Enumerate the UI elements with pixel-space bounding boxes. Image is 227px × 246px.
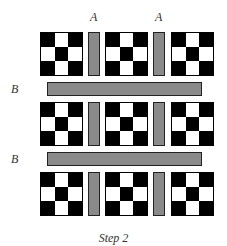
dark-square xyxy=(120,47,134,61)
dark-square xyxy=(41,61,55,75)
light-square xyxy=(172,187,186,201)
light-square xyxy=(186,33,200,47)
sashing-strip-a xyxy=(153,32,165,76)
dark-square xyxy=(68,103,82,117)
nine-patch-block xyxy=(40,172,83,216)
label-b-2: B xyxy=(11,153,18,165)
dark-square xyxy=(186,47,200,61)
sashing-strip-b xyxy=(47,152,202,166)
light-square xyxy=(186,131,200,145)
dark-square xyxy=(199,61,213,75)
dark-square xyxy=(172,131,186,145)
dark-square xyxy=(41,173,55,187)
light-square xyxy=(199,47,213,61)
dark-square xyxy=(68,201,82,215)
light-square xyxy=(68,187,82,201)
light-square xyxy=(199,117,213,131)
dark-square xyxy=(41,33,55,47)
light-square xyxy=(186,201,200,215)
nine-patch-block xyxy=(105,32,148,76)
light-square xyxy=(41,117,55,131)
dark-square xyxy=(55,47,69,61)
light-square xyxy=(120,33,134,47)
dark-square xyxy=(172,201,186,215)
light-square xyxy=(106,117,120,131)
light-square xyxy=(186,61,200,75)
light-square xyxy=(106,47,120,61)
light-square xyxy=(41,187,55,201)
dark-square xyxy=(172,103,186,117)
light-square xyxy=(120,173,134,187)
light-square xyxy=(133,47,147,61)
light-square xyxy=(120,103,134,117)
nine-patch-block xyxy=(105,102,148,146)
dark-square xyxy=(106,61,120,75)
nine-patch-block xyxy=(105,172,148,216)
light-square xyxy=(55,173,69,187)
dark-square xyxy=(199,33,213,47)
light-square xyxy=(120,131,134,145)
dark-square xyxy=(133,131,147,145)
light-square xyxy=(55,61,69,75)
nine-patch-block xyxy=(40,32,83,76)
light-square xyxy=(68,117,82,131)
light-square xyxy=(172,47,186,61)
light-square xyxy=(133,117,147,131)
label-a-1: A xyxy=(90,11,97,23)
dark-square xyxy=(199,201,213,215)
light-square xyxy=(41,47,55,61)
dark-square xyxy=(55,187,69,201)
dark-square xyxy=(172,173,186,187)
sashing-strip-a xyxy=(153,102,165,146)
light-square xyxy=(133,187,147,201)
light-square xyxy=(186,173,200,187)
dark-square xyxy=(120,117,134,131)
light-square xyxy=(120,201,134,215)
dark-square xyxy=(41,103,55,117)
dark-square xyxy=(133,103,147,117)
sashing-strip-a xyxy=(88,172,100,216)
dark-square xyxy=(133,33,147,47)
dark-square xyxy=(172,33,186,47)
light-square xyxy=(172,117,186,131)
dark-square xyxy=(41,201,55,215)
dark-square xyxy=(106,201,120,215)
dark-square xyxy=(68,173,82,187)
dark-square xyxy=(120,187,134,201)
nine-patch-block xyxy=(171,32,214,76)
dark-square xyxy=(199,173,213,187)
light-square xyxy=(106,187,120,201)
light-square xyxy=(55,131,69,145)
step-caption: Step 2 xyxy=(0,231,227,246)
label-a-2: A xyxy=(155,11,162,23)
dark-square xyxy=(106,173,120,187)
dark-square xyxy=(55,117,69,131)
dark-square xyxy=(41,131,55,145)
dark-square xyxy=(186,117,200,131)
nine-patch-block xyxy=(171,102,214,146)
dark-square xyxy=(133,173,147,187)
label-b-1: B xyxy=(11,83,18,95)
light-square xyxy=(199,187,213,201)
nine-patch-block xyxy=(171,172,214,216)
dark-square xyxy=(106,131,120,145)
nine-patch-block xyxy=(40,102,83,146)
dark-square xyxy=(68,61,82,75)
sashing-strip-b xyxy=(47,82,202,96)
dark-square xyxy=(186,187,200,201)
dark-square xyxy=(106,33,120,47)
dark-square xyxy=(199,103,213,117)
light-square xyxy=(55,33,69,47)
dark-square xyxy=(199,131,213,145)
dark-square xyxy=(133,201,147,215)
light-square xyxy=(120,61,134,75)
dark-square xyxy=(133,61,147,75)
light-square xyxy=(55,201,69,215)
dark-square xyxy=(68,131,82,145)
sashing-strip-a xyxy=(153,172,165,216)
light-square xyxy=(68,47,82,61)
sashing-strip-a xyxy=(88,32,100,76)
dark-square xyxy=(172,61,186,75)
light-square xyxy=(186,103,200,117)
light-square xyxy=(55,103,69,117)
